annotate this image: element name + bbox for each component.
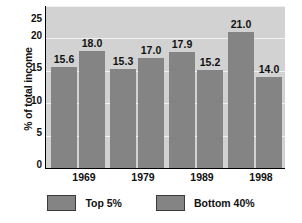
bar-label-1989-top5: 17.9: [164, 39, 200, 50]
y-tick-20: 20: [20, 31, 42, 41]
x-tick-1969: 1969: [64, 172, 104, 183]
x-axis-line: [45, 168, 285, 169]
y-tick-15: 15: [20, 63, 42, 73]
legend-swatch-top-5: [47, 195, 76, 211]
bar-label-1998-top5: 21.0: [223, 19, 259, 30]
bar-label-1969-top5: 15.6: [46, 54, 82, 65]
x-tick-1998: 1998: [241, 172, 281, 183]
y-tick-5: 5: [20, 128, 42, 138]
legend-label-top-5: Top 5%: [85, 198, 122, 209]
legend-item-bottom-40[interactable]: Bottom 40%: [156, 195, 255, 211]
bar-chart: % of total income 0 5 10 15 20 25 15.6 1…: [0, 0, 302, 223]
bar-label-1998-bottom40: 14.0: [251, 64, 287, 75]
y-tick-0: 0: [20, 160, 42, 170]
legend-item-top-5[interactable]: Top 5%: [47, 195, 122, 211]
bar-label-1979-top5: 15.3: [105, 56, 141, 67]
legend-swatch-bottom-40: [156, 195, 185, 211]
bar-value-labels: 15.6 18.0 15.3 17.0 17.9 15.2 21.0 14.0: [46, 6, 285, 168]
y-axis-tick-labels: 0 5 10 15 20 25: [16, 0, 42, 223]
bar-label-1989-bottom40: 15.2: [192, 57, 228, 68]
y-tick-25: 25: [20, 14, 42, 24]
bar-label-1969-bottom40: 18.0: [74, 38, 110, 49]
x-tick-1989: 1989: [182, 172, 222, 183]
x-tick-1979: 1979: [123, 172, 163, 183]
chart-legend: Top 5% Bottom 40%: [0, 191, 302, 215]
legend-label-bottom-40: Bottom 40%: [194, 198, 255, 209]
y-tick-10: 10: [20, 96, 42, 106]
